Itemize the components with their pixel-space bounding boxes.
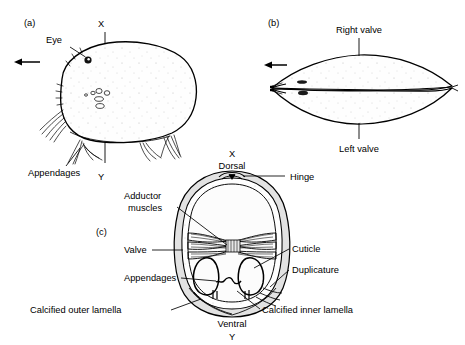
panel-c-cuticle-label: Cuticle [292,244,320,254]
panel-c-valve-label: Valve [124,245,147,255]
panel-c-section-top-label: X [229,149,235,159]
panel-b: (b) [264,18,458,154]
panel-c-tag: (c) [96,227,107,237]
panel-a-anterior-arrow-icon [14,59,40,66]
panel-b-anterior-arrow-icon [264,62,287,69]
panel-b-right-valve-label: Right valve [336,25,382,35]
panel-c-ventral-label: Ventral [218,319,247,329]
panel-a-anterior-setae [40,110,66,142]
panel-b-right-valve [272,55,452,90]
panel-a-section-bottom-label: Y [98,172,104,182]
panel-c-dorsal-label: Dorsal [219,161,246,171]
panel-a: (a) X Y Eye [14,18,196,182]
panel-a-section-top-label: X [98,19,104,29]
panel-c-inner-lamella-label: Calcified inner lamella [262,305,354,315]
panel-c-duplicature-label: Duplicature [292,265,339,275]
panel-c-adductor-label-line2: muscles [128,203,162,213]
panel-a-appendage-mid [140,143,161,161]
panel-c-appendages-label: Appendages [124,273,177,283]
panel-a-carapace-outline [61,42,197,143]
panel-a-tag: (a) [24,18,35,28]
panel-b-tag: (b) [268,18,279,28]
panel-a-appendage-right [161,135,181,159]
panel-a-appendages-label: Appendages [28,168,81,178]
panel-c-hinge-label: Hinge [290,172,314,182]
panel-c-section-bottom-label: Y [229,332,235,342]
panel-a-eye [84,56,91,63]
panel-b-eye-spot-left [298,91,308,95]
panel-a-eye-label: Eye [46,35,62,45]
panel-b-eye-spot-right [297,80,307,84]
panel-a-appendage-left [68,140,102,164]
panel-c-outer-lamella-label: Calcified outer lamella [30,305,122,315]
figure-canvas: (a) X Y Eye [0,0,465,345]
panel-b-left-valve-label: Left valve [339,144,379,154]
panel-b-posterior-tip [452,85,458,91]
panel-c-adductor-label-line1: Adductor [124,191,161,201]
ostracod-anatomy-figure: (a) X Y Eye [0,0,465,345]
